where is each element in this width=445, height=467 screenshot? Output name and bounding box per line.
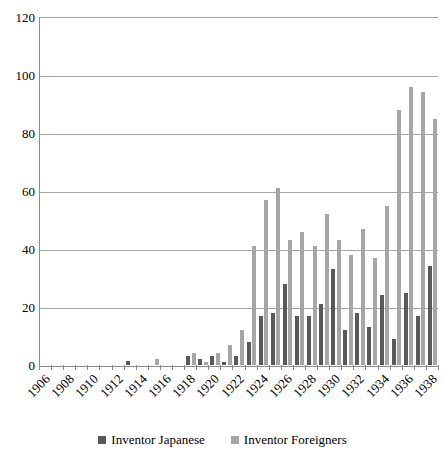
bar [259,316,263,365]
legend-swatch-icon [98,436,106,444]
bar [240,330,244,365]
bar [247,342,251,365]
bar [300,232,304,365]
legend-label: Inventor Japanese [111,433,205,446]
x-tick-label: 1916 [146,372,174,400]
bar [234,356,238,365]
x-tick-label: 1930 [315,372,343,400]
bar-group [330,18,342,365]
bar [252,246,256,365]
bar-group [342,18,354,365]
x-axis: 1906190819101912191419161918192019221924… [0,366,445,421]
x-tick-label: 1908 [49,372,77,400]
bar [416,316,420,365]
bar-group [161,18,173,365]
bar-group [209,18,221,365]
bar [288,240,292,365]
bar [397,110,401,365]
bar-group [221,18,233,365]
x-tick-label: 1906 [25,372,53,400]
bar [283,284,287,365]
y-tick-label: 60 [3,185,35,198]
bar-group [294,18,306,365]
bar [373,258,377,365]
x-tick-label: 1914 [121,372,149,400]
bar [337,240,341,365]
bar-group [125,18,137,365]
legend-label: Inventor Foreigners [244,433,347,446]
bar-group [52,18,64,365]
bar-group [379,18,391,365]
x-tick-label: 1910 [73,372,101,400]
bar [409,87,413,365]
chart-legend: Inventor JapaneseInventor Foreigners [0,433,445,446]
legend-entry: Inventor Foreigners [231,433,347,446]
bar-group [173,18,185,365]
bar [421,92,425,365]
bar-group [88,18,100,365]
x-tick-label: 1912 [97,372,125,400]
x-tick-label: 1934 [363,372,391,400]
x-tick-label: 1926 [266,372,294,400]
bar [276,188,280,365]
x-tick-label: 1936 [387,372,415,400]
bar [385,206,389,366]
bar-group [64,18,76,365]
bar [367,327,371,365]
bar-group [113,18,125,365]
bar [319,304,323,365]
plot-area [39,17,438,365]
bar [392,339,396,365]
bar-chart: 120100806040200 190619081910191219141916… [0,0,445,467]
bar-group [318,18,330,365]
bar [433,119,437,366]
bar [325,214,329,365]
bar [361,229,365,365]
bar-group [76,18,88,365]
bar-group [306,18,318,365]
bar [216,353,220,365]
bar-group [149,18,161,365]
bar-group [427,18,439,365]
bar-group [233,18,245,365]
x-tick-label: 1918 [170,372,198,400]
bar-group [354,18,366,365]
bar-group [366,18,378,365]
bar-group [185,18,197,365]
bar [380,295,384,365]
bar-group [270,18,282,365]
bar [192,353,196,365]
x-tick-label: 1932 [339,372,367,400]
bar [428,266,432,365]
bar [355,313,359,365]
x-tick-label: 1920 [194,372,222,400]
bar [228,345,232,365]
bar-group [282,18,294,365]
bars-layer [40,18,438,365]
x-tick-label: 1924 [242,372,270,400]
legend-swatch-icon [231,436,239,444]
bar [331,269,335,365]
bar-group [137,18,149,365]
bar [349,255,353,365]
bar [186,356,190,365]
y-tick-label: 120 [3,11,35,24]
bar [313,246,317,365]
bar-group [391,18,403,365]
bar [295,316,299,365]
y-tick-label: 100 [3,69,35,82]
bar-group [197,18,209,365]
x-tick-label: 1922 [218,372,246,400]
bar-group [258,18,270,365]
bar [264,200,268,365]
bar-group [40,18,52,365]
bar [210,356,214,365]
bar-group [100,18,112,365]
y-tick-label: 20 [3,301,35,314]
legend-entry: Inventor Japanese [98,433,205,446]
bar [404,293,408,366]
x-tick-label: 1938 [412,372,440,400]
y-tick-label: 40 [3,243,35,256]
y-tick-label: 80 [3,127,35,140]
bar [271,313,275,365]
